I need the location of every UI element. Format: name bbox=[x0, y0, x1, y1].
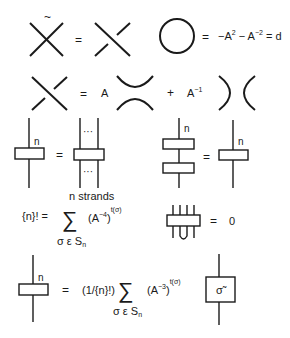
equals-sign: = bbox=[203, 150, 210, 164]
summation-index: σ ε Sn bbox=[57, 235, 86, 248]
equals-sign: = bbox=[210, 214, 217, 228]
jones-wenzl-projector: n bbox=[15, 118, 44, 188]
summation-symbol: ∑ bbox=[62, 207, 78, 232]
jones-wenzl-projector: n bbox=[19, 255, 48, 322]
summation-term: (A−4)t(σ) bbox=[88, 206, 122, 224]
vertical-smoothing bbox=[219, 76, 255, 110]
strand-dots: ··· bbox=[83, 126, 93, 137]
tilde-label: ~ bbox=[44, 10, 51, 24]
summation-symbol: ∑ bbox=[118, 278, 134, 303]
normalization-prefactor: (1/{n}!) bbox=[82, 284, 115, 296]
coefficient-a-inverse: A−1 bbox=[187, 86, 202, 99]
strand-count-label: n bbox=[184, 123, 190, 134]
strand-count-label: n bbox=[38, 272, 44, 283]
equals-sign: = bbox=[75, 33, 82, 47]
strand-dots: ··· bbox=[83, 166, 93, 177]
single-projector: n bbox=[219, 120, 248, 188]
loop-value: −A2 − A−2 = d bbox=[218, 29, 282, 42]
multi-strand-projector: ··· ··· n strands bbox=[69, 118, 115, 202]
stacked-projectors: n bbox=[163, 118, 194, 188]
summation-index: σ ε Sn bbox=[113, 305, 142, 318]
strand-count-label: n bbox=[34, 136, 40, 147]
equals-sign: = bbox=[202, 30, 209, 44]
equals-sign: = bbox=[80, 87, 87, 101]
crossing-diagram bbox=[95, 23, 130, 56]
strand-count-label: n bbox=[238, 136, 244, 147]
coefficient-a: A bbox=[101, 87, 109, 99]
skein-relations-diagram: ~ = = −A2 − A−2 = d = A + A−1 n = ··· bbox=[0, 0, 290, 338]
plus-sign: + bbox=[167, 86, 174, 100]
summation-term: (A−3)t(σ) bbox=[147, 278, 181, 296]
unknot-loop bbox=[160, 19, 194, 53]
permutation-braid-box: σ̃ bbox=[206, 254, 235, 325]
crossing-diagram bbox=[32, 77, 67, 110]
projector-with-cap bbox=[167, 205, 200, 239]
quantum-factorial-lhs: {n}! = bbox=[22, 210, 48, 222]
equals-sign: = bbox=[62, 283, 69, 297]
horizontal-smoothing bbox=[117, 76, 153, 110]
framed-crossing: ~ bbox=[30, 10, 63, 56]
equals-sign: = bbox=[56, 148, 63, 162]
n-strands-caption: n strands bbox=[69, 190, 115, 202]
zero-result: 0 bbox=[229, 215, 235, 227]
